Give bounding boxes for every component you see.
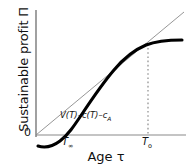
tick-subscript-infinity: ∞ bbox=[68, 142, 73, 150]
tick-label-t-optimal: To bbox=[142, 136, 152, 150]
curve-formula-label: V(T)–c(T)–cA bbox=[60, 110, 111, 122]
sustainable-profit-figure: Sustainable profit Π Age τ 0 T∞ To V(T)–… bbox=[0, 0, 188, 168]
tick-label-t-infinity: T∞ bbox=[62, 136, 74, 150]
tick-subscript-optimal: o bbox=[148, 142, 152, 150]
profit-curve bbox=[38, 40, 182, 147]
curve-formula-subscript: A bbox=[107, 115, 111, 122]
x-axis-label: Age τ bbox=[66, 149, 146, 164]
origin-label: 0 bbox=[24, 126, 31, 139]
curve-formula-main: V(T)–c(T)–c bbox=[60, 110, 107, 120]
y-axis-label: Sustainable profit Π bbox=[16, 0, 31, 145]
